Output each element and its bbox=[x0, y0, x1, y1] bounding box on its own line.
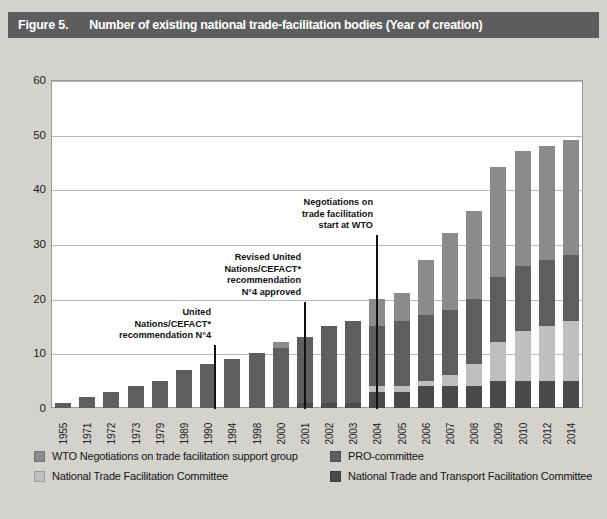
legend-swatch-icon bbox=[34, 451, 45, 462]
legend-item-label: PRO-committee bbox=[348, 450, 424, 462]
bar-segment bbox=[345, 321, 361, 403]
x-axis-tick-label: 2008 bbox=[469, 423, 480, 444]
x-axis-tick-label: 2003 bbox=[348, 423, 359, 444]
bar-1973[interactable] bbox=[128, 80, 144, 408]
x-axis-tick-label: 1971 bbox=[82, 423, 93, 444]
bar-segment bbox=[442, 386, 458, 408]
bar-1971[interactable] bbox=[79, 80, 95, 408]
bar-segment bbox=[418, 386, 434, 408]
legend-swatch-icon bbox=[330, 451, 341, 462]
bar-1989[interactable] bbox=[176, 80, 192, 408]
bar-2000[interactable] bbox=[273, 80, 289, 408]
figure-number: Figure 5. bbox=[8, 18, 68, 32]
y-axis-tick-label: 50 bbox=[16, 129, 46, 141]
bar-segment bbox=[273, 348, 289, 408]
bar-1994[interactable] bbox=[224, 80, 240, 408]
bar-1955[interactable] bbox=[55, 80, 71, 408]
annotation-cefact-rec4: United Nations/CEFACT* recommendation N°… bbox=[119, 307, 211, 342]
bar-2009[interactable] bbox=[490, 80, 506, 408]
x-axis-tick-label: 1990 bbox=[203, 423, 214, 444]
bar-2014[interactable] bbox=[563, 80, 579, 408]
chart-area: 0102030405060 19551971197219731979198919… bbox=[8, 44, 599, 444]
bar-segment bbox=[490, 167, 506, 276]
bar-2012[interactable] bbox=[539, 80, 555, 408]
bar-2010[interactable] bbox=[515, 80, 531, 408]
bar-segment bbox=[466, 299, 482, 365]
figure-container: Figure 5. Number of existing national tr… bbox=[0, 0, 607, 519]
legend-item-label: National Trade Facilitation Committee bbox=[52, 470, 228, 482]
bar-2003[interactable] bbox=[345, 80, 361, 408]
y-axis-tick-label: 10 bbox=[16, 347, 46, 359]
x-axis-tick-label: 1979 bbox=[155, 423, 166, 444]
bar-segment bbox=[466, 364, 482, 386]
bar-2005[interactable] bbox=[394, 80, 410, 408]
bar-segment bbox=[563, 140, 579, 255]
bar-segment bbox=[418, 260, 434, 315]
chart-legend: WTO Negotiations on trade facilitation s… bbox=[8, 444, 599, 504]
bar-segment bbox=[321, 326, 337, 403]
bar-segment bbox=[103, 392, 119, 408]
legend-swatch-icon bbox=[34, 471, 45, 482]
y-axis-tick-label: 30 bbox=[16, 238, 46, 250]
x-axis-tick-label: 1989 bbox=[179, 423, 190, 444]
legend-item[interactable]: National Trade Facilitation Committee bbox=[34, 470, 228, 482]
x-axis-tick-label: 2010 bbox=[518, 423, 529, 444]
bar-1972[interactable] bbox=[103, 80, 119, 408]
bar-segment bbox=[515, 381, 531, 408]
bar-segment bbox=[539, 146, 555, 261]
x-axis-tick-label: 1955 bbox=[58, 423, 69, 444]
bar-2002[interactable] bbox=[321, 80, 337, 408]
x-axis-tick-label: 1998 bbox=[252, 423, 263, 444]
bar-segment bbox=[394, 386, 410, 391]
bar-segment bbox=[490, 277, 506, 343]
bar-2008[interactable] bbox=[466, 80, 482, 408]
bar-segment bbox=[515, 331, 531, 380]
legend-swatch-icon bbox=[330, 471, 341, 482]
legend-item[interactable]: WTO Negotiations on trade facilitation s… bbox=[34, 450, 298, 462]
bar-2007[interactable] bbox=[442, 80, 458, 408]
bar-segment bbox=[79, 397, 95, 408]
x-axis-tick-label: 2014 bbox=[566, 423, 577, 444]
bar-1979[interactable] bbox=[152, 80, 168, 408]
x-axis-tick-label: 2005 bbox=[397, 423, 408, 444]
legend-item-label: National Trade and Transport Facilitatio… bbox=[348, 470, 592, 482]
bar-segment bbox=[394, 293, 410, 320]
bar-segment bbox=[515, 151, 531, 266]
bar-segment bbox=[563, 255, 579, 321]
bar-segment bbox=[515, 266, 531, 332]
bar-segment bbox=[490, 342, 506, 380]
bar-segment bbox=[128, 386, 144, 408]
bar-segment bbox=[394, 392, 410, 408]
y-axis-tick-label: 40 bbox=[16, 183, 46, 195]
x-axis-tick-label: 2001 bbox=[300, 423, 311, 444]
bar-segment bbox=[273, 342, 289, 347]
bar-segment bbox=[176, 370, 192, 408]
x-axis-tick-label: 2009 bbox=[493, 423, 504, 444]
bar-segment bbox=[55, 403, 71, 408]
figure-title-bar: Figure 5. Number of existing national tr… bbox=[8, 12, 599, 38]
x-axis-tick-label: 2012 bbox=[542, 423, 553, 444]
x-axis-tick-label: 2002 bbox=[324, 423, 335, 444]
annotation-cefact-rec4-revised: Revised United Nations/CEFACT* recommend… bbox=[224, 252, 301, 298]
x-axis-tick-label: 1973 bbox=[131, 423, 142, 444]
y-axis-tick-label: 60 bbox=[16, 74, 46, 86]
bar-segment bbox=[442, 233, 458, 310]
legend-item[interactable]: PRO-committee bbox=[330, 450, 424, 462]
bar-segment bbox=[466, 211, 482, 298]
legend-item[interactable]: National Trade and Transport Facilitatio… bbox=[330, 470, 592, 482]
bar-segment bbox=[152, 381, 168, 408]
annotation-wto-negotiations-start-leader-line bbox=[376, 235, 378, 409]
legend-item-label: WTO Negotiations on trade facilitation s… bbox=[52, 450, 298, 462]
bar-1998[interactable] bbox=[249, 80, 265, 408]
x-axis-tick-label: 2007 bbox=[445, 423, 456, 444]
bar-2006[interactable] bbox=[418, 80, 434, 408]
y-axis-tick-label: 0 bbox=[16, 402, 46, 414]
bar-segment bbox=[442, 375, 458, 386]
bar-segment bbox=[418, 315, 434, 381]
x-axis-tick-label: 2000 bbox=[276, 423, 287, 444]
bar-segment bbox=[442, 310, 458, 376]
bar-segment bbox=[539, 381, 555, 408]
bar-segment bbox=[563, 381, 579, 408]
bar-segment bbox=[321, 403, 337, 408]
bar-segment bbox=[394, 321, 410, 387]
